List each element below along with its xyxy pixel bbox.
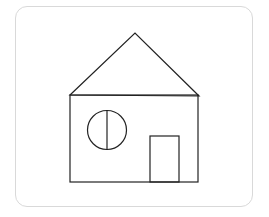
house-drawing: [0, 0, 269, 217]
roof-triangle: [70, 33, 199, 96]
door: [150, 136, 179, 182]
